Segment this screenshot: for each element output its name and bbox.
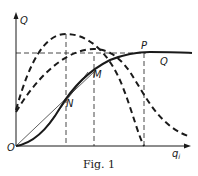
y-axis-arrow-icon	[14, 12, 19, 19]
figure-caption: Fig. 1	[83, 158, 115, 171]
x-axis-arrow-icon	[184, 144, 191, 149]
dashed-curves	[16, 34, 188, 146]
y-axis-label: Q	[20, 15, 28, 26]
point-m-label: M	[93, 69, 102, 80]
figure-diagram: Q O qi P Q M N Fig. 1	[0, 0, 198, 176]
ray-from-origin	[16, 70, 96, 146]
point-p-label: P	[141, 40, 148, 51]
point-n-label: N	[66, 98, 74, 109]
curve-q-label: Q	[160, 56, 168, 67]
tangent-lines	[16, 70, 96, 146]
origin-label: O	[7, 142, 15, 153]
x-axis-label: qi	[172, 148, 180, 161]
